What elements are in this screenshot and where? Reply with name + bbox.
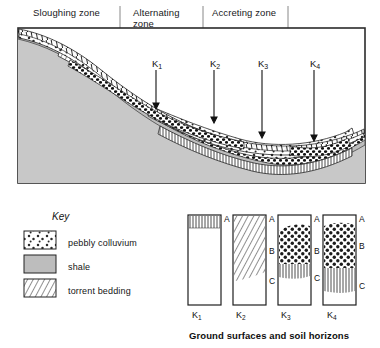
key-label-shale: shale [68,262,90,272]
soil-profile-k1 [188,215,221,305]
profile-band-k3-b [279,224,310,264]
key-title: Key [52,211,69,222]
soil-profile-columns [188,215,356,305]
horizon-label-k3-a: A [314,214,320,224]
profile-band-k4-c [324,268,355,293]
profile-box-k1 [188,215,221,305]
core-marker-label-k2: K2 [210,58,220,69]
horizon-label-k2-c: C [269,276,275,286]
horizon-label-k2-a: A [269,214,275,224]
profile-band-k1-a [189,216,220,228]
soil-profile-k2 [233,215,266,305]
profile-label-k2: K2 [236,310,246,320]
zone-label-alternating: Alternating zone [133,8,180,29]
core-marker-label-k3-sub: 3 [264,63,268,70]
profile-label-k1: K1 [192,310,202,320]
core-marker-label-k1: K1 [152,58,162,69]
key-swatches [24,231,56,297]
profile-label-k1-sub: 1 [198,314,202,321]
horizon-label-k4-a: A [359,214,365,224]
core-marker-label-k4: K4 [310,58,320,69]
key-label-pebbly-colluvium: pebbly colluvium [68,238,137,248]
profile-label-k2-sub: 2 [242,314,246,321]
profile-label-k3-sub: 3 [287,314,291,321]
horizon-label-k4-c: C [359,281,365,291]
core-marker-label-k1-sub: 1 [158,63,162,70]
key-swatch-torrent-bedding [24,279,56,297]
core-marker-label-k2-sub: 2 [216,63,220,70]
geomorphology-cross-section-figure [0,0,380,348]
zone-label-sloughing: Sloughing zone [33,8,100,19]
key-swatch-shale [24,255,56,273]
profile-band-k2-hatch [234,216,265,281]
horizon-label-k3-c: C [314,273,320,283]
zone-label-accreting: Accreting zone [212,8,276,19]
key-label-torrent-bedding: torrent bedding [68,286,131,296]
profile-band-k4-b [324,223,355,268]
profile-label-k4: K4 [327,310,337,320]
profile-label-k4-sub: 4 [333,314,337,321]
horizon-label-k4-b: B [359,241,365,251]
cross-section [18,28,365,183]
core-marker-label-k4-sub: 4 [316,63,320,70]
core-marker-label-k3: K3 [258,58,268,69]
horizon-label-k2-b: B [269,246,275,256]
profile-band-k3-c [279,264,310,279]
columns-caption: Ground surfaces and soil horizons [189,330,349,341]
horizon-label-k3-b: B [314,246,320,256]
figure-root: Sloughing zone Alternating zone Accretin… [0,0,380,348]
horizon-label-k1-a: A [224,214,230,224]
profile-label-k3: K3 [281,310,291,320]
key-swatch-pebbly-colluvium [24,231,56,249]
soil-profile-k3 [278,215,311,305]
soil-profile-k4 [323,215,356,305]
